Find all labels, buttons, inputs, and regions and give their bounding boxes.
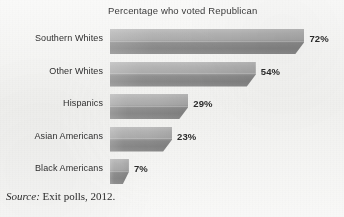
source-note: Source: Exit polls, 2012.	[6, 190, 115, 202]
bar	[110, 29, 304, 54]
bar-row: Other Whites54%	[0, 60, 344, 90]
bar	[110, 127, 172, 152]
bar-body	[110, 94, 188, 119]
bar	[110, 159, 129, 184]
category-label: Black Americans	[0, 163, 103, 173]
bar-value-label: 72%	[309, 33, 328, 44]
chart-figure: Percentage who voted Republican Southern…	[0, 0, 344, 217]
bar-row: Hispanics29%	[0, 92, 344, 122]
plot-area: Southern Whites72%Other Whites54%Hispani…	[0, 24, 344, 181]
bar-body	[110, 62, 256, 87]
category-label: Asian Americans	[0, 131, 103, 141]
chart-title: Percentage who voted Republican	[108, 5, 338, 16]
bar-value-label: 29%	[193, 98, 212, 109]
bar-value-label: 54%	[261, 66, 280, 77]
bar-value-label: 7%	[134, 163, 148, 174]
bar-row: Southern Whites72%	[0, 27, 344, 57]
bar-body	[110, 159, 129, 184]
category-label: Hispanics	[0, 98, 103, 108]
bar	[110, 94, 188, 119]
bar	[110, 62, 256, 87]
bar-body	[110, 29, 304, 54]
bar-value-label: 23%	[177, 131, 196, 142]
category-label: Other Whites	[0, 66, 103, 76]
bar-row: Asian Americans23%	[0, 125, 344, 155]
bar-body	[110, 127, 172, 152]
bar-row: Black Americans7%	[0, 157, 344, 187]
source-text: Exit polls, 2012.	[43, 190, 116, 202]
source-label: Source:	[6, 190, 40, 202]
category-label: Southern Whites	[0, 33, 103, 43]
